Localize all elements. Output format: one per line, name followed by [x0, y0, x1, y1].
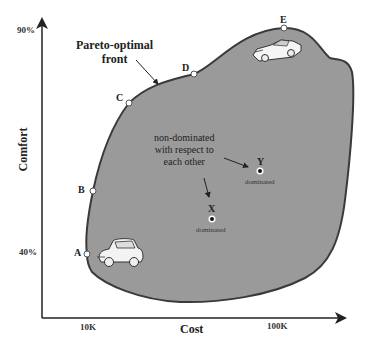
annotation-line2: with respect to [154, 144, 215, 156]
x-axis-title: Cost [180, 322, 203, 337]
label-y: Y [257, 156, 264, 167]
label-a: A [74, 247, 81, 258]
label-b: B [78, 184, 85, 195]
point-e [281, 25, 287, 31]
y-tick-40: 40% [19, 247, 37, 257]
label-c: C [116, 92, 123, 103]
label-e: E [280, 14, 287, 25]
pareto-label-line1: Pareto-optimal [76, 38, 153, 52]
non-dominated-annotation: non-dominated with respect to each other [154, 132, 215, 168]
diagram-canvas [0, 0, 367, 349]
pareto-label-line2: front [76, 52, 153, 66]
x-tick-100k: 100K [267, 321, 288, 331]
y-axis-title: Comfort [16, 128, 31, 172]
pareto-front-label: Pareto-optimal front [76, 38, 153, 66]
annotation-line1: non-dominated [154, 132, 215, 144]
y-tick-90: 90% [17, 25, 35, 35]
label-x-dominated: dominated [196, 226, 226, 234]
point-b [90, 188, 96, 194]
point-c [126, 100, 132, 106]
label-y-dominated: dominated [245, 178, 275, 186]
label-x: X [208, 203, 215, 214]
annotation-line3: each other [154, 156, 215, 168]
point-d [191, 71, 197, 77]
point-a [84, 251, 90, 257]
label-d: D [182, 62, 189, 73]
x-tick-10k: 10K [80, 322, 96, 332]
